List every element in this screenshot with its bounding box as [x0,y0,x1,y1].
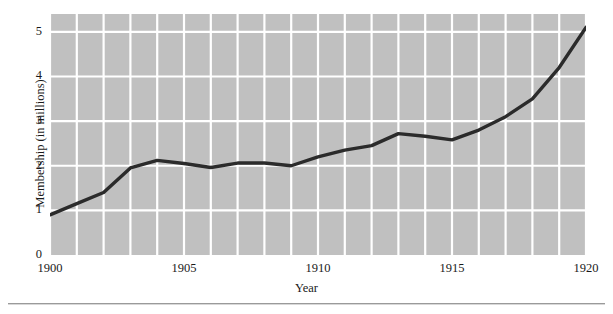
x-tick-label: 1910 [288,262,348,275]
x-tick-label: 1905 [154,262,214,275]
chart-plot-svg [50,14,586,255]
x-axis-title: Year [0,281,613,296]
chart-figure: Membership (in millions) 012345 19001905… [0,0,613,314]
x-tick-label: 1920 [556,262,613,275]
vertical-gridlines [50,14,586,255]
y-tick-label: 1 [16,203,42,216]
y-tick-label: 5 [16,25,42,38]
y-tick-label: 4 [16,69,42,82]
plot-area [50,14,586,255]
footer-divider [8,303,605,305]
y-tick-label: 0 [16,248,42,261]
y-tick-label: 2 [16,159,42,172]
x-tick-label: 1915 [422,262,482,275]
y-tick-label: 3 [16,114,42,127]
x-tick-label: 1900 [20,262,80,275]
